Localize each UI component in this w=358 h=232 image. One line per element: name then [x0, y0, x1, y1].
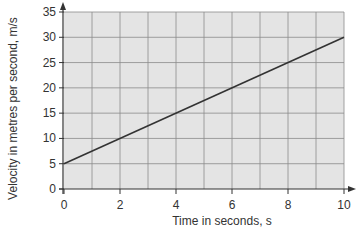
x-tick-label: 2	[117, 198, 124, 212]
x-axis-arrow-icon	[348, 186, 356, 192]
y-tick-label: 25	[43, 56, 57, 70]
y-axis-arrow-icon	[60, 2, 66, 10]
x-tick-label: 8	[285, 198, 292, 212]
y-tick-label: 35	[43, 5, 57, 19]
x-tick-label: 10	[337, 198, 351, 212]
x-tick-label: 0	[61, 198, 68, 212]
x-axis-label: Time in seconds, s	[172, 214, 272, 228]
x-tick-label: 4	[173, 198, 180, 212]
y-tick-label: 30	[43, 30, 57, 44]
x-tick-label: 6	[229, 198, 236, 212]
y-tick-label: 20	[43, 81, 57, 95]
y-tick-label: 15	[43, 106, 57, 120]
y-tick-label: 0	[49, 182, 56, 196]
y-axis-label: Velocity in metres per second, m/s	[6, 17, 20, 200]
velocity-time-chart: 05101520253035 0246810 Time in seconds, …	[0, 0, 358, 232]
y-axis-ticks: 05101520253035	[43, 5, 64, 196]
x-axis-ticks: 0246810	[61, 189, 351, 212]
y-tick-label: 5	[49, 157, 56, 171]
y-tick-label: 10	[43, 131, 57, 145]
